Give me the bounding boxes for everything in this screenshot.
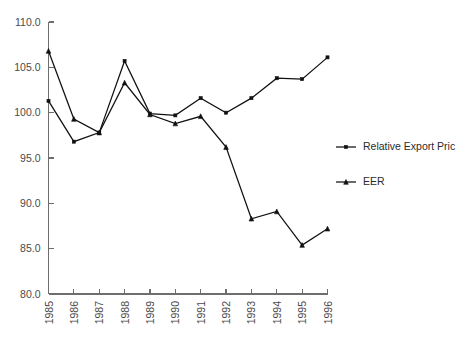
legend-label: Relative Export Pric (363, 140, 455, 152)
data-point (325, 226, 330, 231)
x-axis-ticks (49, 289, 328, 295)
data-point (47, 99, 50, 102)
x-tick-label: 1990 (169, 301, 181, 325)
series-line (49, 57, 328, 141)
data-point (72, 140, 75, 143)
chart-container: 80.085.090.095.0100.0105.0110.0 19851986… (0, 0, 461, 337)
data-point (250, 97, 253, 100)
chart-legend: Relative Export PricEER (336, 140, 455, 187)
x-tick-label: 1986 (68, 301, 80, 325)
x-tick-label: 1993 (245, 301, 257, 325)
y-tick-label: 105.0 (14, 61, 40, 73)
y-tick-label: 100.0 (14, 106, 40, 118)
data-point (275, 77, 278, 80)
x-tick-label: 1996 (322, 301, 334, 325)
legend-item[interactable]: EER (336, 175, 385, 187)
legend-marker (344, 145, 347, 148)
data-point (72, 116, 77, 121)
x-axis-labels: 1985198619871988198919901991199219931994… (43, 301, 334, 325)
series-line (49, 51, 328, 245)
data-point (174, 114, 177, 117)
y-tick-label: 80.0 (20, 288, 41, 300)
x-tick-label: 1985 (43, 301, 55, 325)
legend-item[interactable]: Relative Export Pric (336, 140, 455, 152)
y-tick-label: 90.0 (20, 197, 41, 209)
y-axis-labels: 80.085.090.095.0100.0105.0110.0 (14, 16, 40, 300)
legend-label: EER (363, 175, 385, 187)
x-tick-label: 1989 (144, 301, 156, 325)
data-point (199, 97, 202, 100)
data-point (123, 59, 126, 62)
x-tick-label: 1988 (119, 301, 131, 325)
data-point (301, 78, 304, 81)
data-point (122, 80, 127, 85)
x-tick-label: 1992 (220, 301, 232, 325)
x-tick-label: 1995 (296, 301, 308, 325)
y-tick-label: 95.0 (20, 152, 41, 164)
data-point (224, 111, 227, 114)
data-point (326, 56, 329, 59)
data-point (46, 48, 51, 53)
series-relative-export-pric (47, 56, 329, 143)
y-tick-label: 110.0 (15, 16, 41, 28)
x-tick-label: 1994 (271, 301, 283, 325)
line-chart: 80.085.090.095.0100.0105.0110.0 19851986… (0, 0, 461, 337)
y-tick-label: 85.0 (20, 242, 41, 254)
series-layer (46, 48, 330, 247)
x-tick-label: 1991 (195, 301, 207, 325)
x-tick-label: 1987 (93, 301, 105, 325)
